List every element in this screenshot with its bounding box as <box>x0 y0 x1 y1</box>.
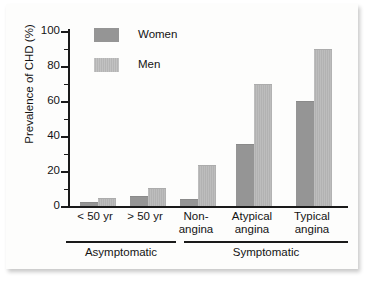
x-tick-label-atypical-angina-line2: angina <box>219 223 285 236</box>
y-tick-major-0 <box>61 206 69 208</box>
bar-men-atypical-angina <box>254 84 272 206</box>
x-tick-label-typical-angina-line2: angina <box>279 223 345 236</box>
bar-women-non-angina <box>180 199 198 206</box>
bar-men-typical-angina <box>314 49 332 206</box>
group-label-asymptomatic: Asymptomatic <box>66 247 176 259</box>
x-tick-label-atypical-angina-line1: Atypical <box>219 210 285 223</box>
y-tick-label-40: 40 <box>8 130 60 142</box>
y-tick-label-100: 100 <box>8 25 60 37</box>
bar-men-non-angina <box>198 165 216 206</box>
chart-figure: Prevalence of CHD (%) 100 80 60 40 20 <box>0 0 368 283</box>
figure-plate: Prevalence of CHD (%) 100 80 60 40 20 <box>6 4 358 269</box>
x-axis-line <box>67 206 348 208</box>
bar-women-lt50 <box>80 202 98 206</box>
x-tick-label-atypical-angina: Atypical angina <box>219 210 285 235</box>
bracket-line-asymptomatic <box>66 241 176 243</box>
bar-women-atypical-angina <box>236 144 254 206</box>
group-label-symptomatic: Symptomatic <box>184 247 348 259</box>
bars-area <box>68 31 348 206</box>
bar-women-typical-angina <box>296 101 314 206</box>
bar-women-gt50 <box>130 196 148 206</box>
y-tick-label-20: 20 <box>8 165 60 177</box>
y-tick-label-60: 60 <box>8 95 60 107</box>
x-tick-label-typical-angina: Typical angina <box>279 210 345 235</box>
bracket-line-symptomatic <box>184 241 348 243</box>
bar-men-lt50 <box>98 198 116 206</box>
x-tick-label-typical-angina-line1: Typical <box>279 210 345 223</box>
y-tick-label-80: 80 <box>8 60 60 72</box>
y-tick-label-0: 0 <box>8 200 60 212</box>
bar-men-gt50 <box>148 188 166 207</box>
